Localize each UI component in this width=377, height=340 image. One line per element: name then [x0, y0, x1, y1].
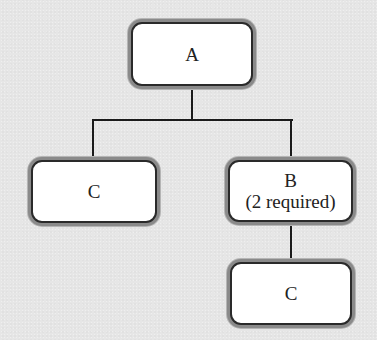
node-a-label: A	[185, 44, 199, 65]
node-c-bottom: C	[230, 262, 352, 325]
tree-diagram: A C B (2 required) C	[0, 0, 377, 340]
node-b: B (2 required)	[228, 160, 353, 222]
connector-b-to-c-bottom	[290, 222, 292, 263]
connector-a-down	[191, 86, 193, 121]
node-b-sublabel: (2 required)	[245, 191, 335, 212]
node-c-left-label: C	[88, 181, 101, 202]
connector-to-b	[290, 119, 292, 161]
node-c-bottom-label: C	[285, 283, 298, 304]
connector-horizontal	[92, 119, 293, 121]
connector-to-c-left	[92, 119, 94, 161]
node-c-left: C	[31, 160, 157, 223]
node-a: A	[131, 22, 253, 86]
node-b-label: B	[284, 170, 297, 191]
